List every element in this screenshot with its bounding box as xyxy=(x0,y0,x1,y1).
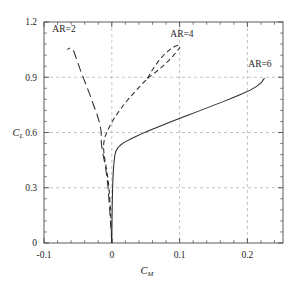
x-tick-label: 0.1 xyxy=(174,250,186,260)
x-tick-label: -0.1 xyxy=(36,250,51,260)
figure-container: -0.100.10.200.30.60.91.2 AR=2AR=4AR=6 CM… xyxy=(0,0,294,283)
ticklabels-group: -0.100.10.200.30.60.91.2 xyxy=(25,17,253,260)
x-tick-label: 0 xyxy=(109,250,114,260)
annotations-group: AR=2AR=4AR=6 xyxy=(52,24,272,70)
y-tick-label: 0.6 xyxy=(25,128,37,138)
series-group xyxy=(67,45,264,243)
y-tick-label: 0.3 xyxy=(25,183,37,193)
y-tick-label: 0 xyxy=(32,238,37,248)
series-line-ar-4-branch-lower xyxy=(148,47,181,78)
series-annotation-ar-6: AR=6 xyxy=(248,59,272,69)
y-tick-label: 0.9 xyxy=(25,73,37,83)
x-axis-title: CM xyxy=(141,265,155,278)
series-annotation-ar-4: AR=4 xyxy=(170,29,194,39)
series-annotation-ar-2: AR=2 xyxy=(52,24,76,34)
chart-canvas: -0.100.10.200.30.60.91.2 AR=2AR=4AR=6 CM… xyxy=(0,0,294,283)
y-axis-title: CL xyxy=(13,127,24,140)
x-tick-label: 0.2 xyxy=(241,250,253,260)
series-line-ar-6 xyxy=(112,78,265,243)
series-line-ar-4 xyxy=(104,78,148,243)
y-tick-label: 1.2 xyxy=(25,17,37,27)
series-line-ar-4-branch-upper xyxy=(148,45,179,78)
